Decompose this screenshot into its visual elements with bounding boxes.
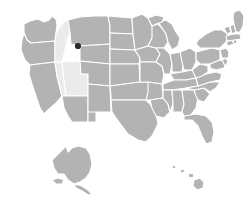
state-NJ[interactable] — [220, 48, 229, 58]
state-AR[interactable] — [146, 82, 163, 100]
state-ND[interactable] — [108, 16, 133, 34]
state-HI-maui — [188, 173, 194, 178]
state-SD[interactable] — [110, 33, 135, 50]
state-HI-oahu — [180, 169, 185, 173]
state-OK[interactable] — [110, 82, 150, 100]
state-HI-kauai — [172, 165, 176, 169]
state-HI-bigisland — [193, 178, 204, 190]
us-map-container — [0, 0, 247, 206]
us-map-svg — [0, 0, 247, 206]
state-MT[interactable] — [68, 16, 110, 46]
